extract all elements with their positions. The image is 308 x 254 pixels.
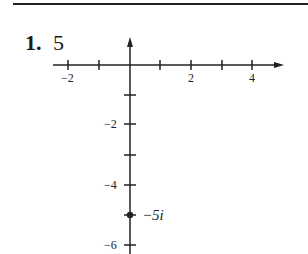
x-tick-label: 4 xyxy=(249,71,255,85)
point-label: −5i xyxy=(142,207,164,223)
y-tick-label: −2 xyxy=(104,117,117,131)
y-tick-label: −6 xyxy=(104,238,117,252)
x-tick-label: −2 xyxy=(61,71,74,85)
imaginary-axis-arrow-icon xyxy=(127,37,133,47)
real-axis-arrow-icon xyxy=(274,62,284,68)
complex-plane-graph: −2 2 4 −2 −4 −6 −5i xyxy=(0,0,308,254)
y-tick-label: −4 xyxy=(104,178,117,192)
x-tick-label: 2 xyxy=(188,71,194,85)
